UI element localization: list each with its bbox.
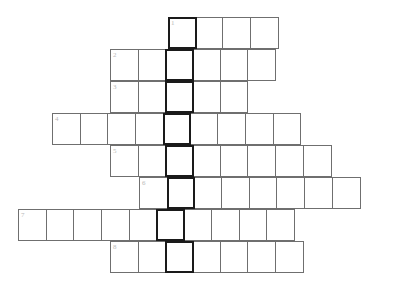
crossword-clue-number: 5 <box>113 147 117 155</box>
crossword-cell[interactable]: 8 <box>110 241 139 273</box>
crossword-cell[interactable]: 6 <box>139 177 168 209</box>
crossword-cell[interactable] <box>192 81 221 113</box>
crossword-cell[interactable] <box>46 209 75 241</box>
crossword-clue-number: 8 <box>113 243 117 251</box>
crossword-cell[interactable] <box>217 113 246 145</box>
crossword-cell-highlighted[interactable] <box>165 81 194 113</box>
crossword-cell[interactable] <box>73 209 102 241</box>
crossword-cell-highlighted[interactable] <box>167 177 196 209</box>
crossword-cell-highlighted[interactable] <box>163 113 192 145</box>
crossword-cell[interactable] <box>220 145 249 177</box>
crossword-row-2: 2 <box>110 49 275 81</box>
crossword-clue-number: 2 <box>113 51 117 59</box>
crossword-row-5: 5 <box>110 145 331 177</box>
crossword-cell[interactable] <box>101 209 130 241</box>
crossword-cell[interactable]: 4 <box>52 113 81 145</box>
crossword-cell[interactable] <box>129 209 158 241</box>
crossword-cell[interactable] <box>250 17 279 49</box>
crossword-row-1: 1 <box>168 17 278 49</box>
crossword-cell[interactable] <box>273 113 302 145</box>
crossword-cell-highlighted[interactable] <box>165 241 194 273</box>
crossword-cell[interactable] <box>195 17 224 49</box>
crossword-cell[interactable] <box>221 177 250 209</box>
crossword-cell-highlighted[interactable] <box>165 145 194 177</box>
crossword-row-8: 8 <box>110 241 303 273</box>
crossword-grid: 12345678 <box>0 0 396 292</box>
crossword-cell[interactable] <box>211 209 240 241</box>
crossword-cell[interactable] <box>276 177 305 209</box>
crossword-cell[interactable] <box>247 241 276 273</box>
crossword-cell[interactable] <box>249 177 278 209</box>
crossword-cell[interactable] <box>107 113 136 145</box>
crossword-cell[interactable] <box>138 81 167 113</box>
crossword-cell[interactable] <box>275 145 304 177</box>
crossword-clue-number: 4 <box>55 115 59 123</box>
crossword-cell[interactable] <box>245 113 274 145</box>
crossword-cell[interactable] <box>304 177 333 209</box>
crossword-cell[interactable]: 5 <box>110 145 139 177</box>
crossword-cell[interactable] <box>220 81 249 113</box>
crossword-cell[interactable] <box>220 241 249 273</box>
crossword-cell[interactable] <box>80 113 109 145</box>
crossword-clue-number: 1 <box>171 19 175 27</box>
crossword-cell[interactable] <box>303 145 332 177</box>
crossword-cell-highlighted[interactable] <box>165 49 194 81</box>
crossword-cell-highlighted[interactable] <box>156 209 185 241</box>
crossword-row-6: 6 <box>139 177 360 209</box>
crossword-row-3: 3 <box>110 81 247 113</box>
crossword-clue-number: 7 <box>21 211 25 219</box>
crossword-cell[interactable] <box>247 145 276 177</box>
crossword-cell[interactable] <box>220 49 249 81</box>
crossword-cell[interactable] <box>193 177 222 209</box>
crossword-row-7: 7 <box>18 209 294 241</box>
crossword-cell[interactable] <box>189 113 218 145</box>
crossword-cell[interactable] <box>138 241 167 273</box>
crossword-cell[interactable]: 7 <box>18 209 47 241</box>
crossword-cell[interactable] <box>138 145 167 177</box>
crossword-cell-highlighted[interactable]: 1 <box>168 17 197 49</box>
crossword-row-4: 4 <box>52 113 300 145</box>
crossword-cell[interactable] <box>266 209 295 241</box>
crossword-cell[interactable] <box>247 49 276 81</box>
crossword-cell[interactable] <box>192 49 221 81</box>
crossword-cell[interactable] <box>332 177 361 209</box>
crossword-clue-number: 6 <box>142 179 146 187</box>
crossword-cell[interactable] <box>275 241 304 273</box>
crossword-cell[interactable] <box>183 209 212 241</box>
crossword-cell[interactable] <box>239 209 268 241</box>
crossword-cell[interactable] <box>222 17 251 49</box>
crossword-cell[interactable] <box>135 113 164 145</box>
crossword-cell[interactable]: 3 <box>110 81 139 113</box>
crossword-cell[interactable]: 2 <box>110 49 139 81</box>
crossword-cell[interactable] <box>192 145 221 177</box>
crossword-cell[interactable] <box>192 241 221 273</box>
crossword-clue-number: 3 <box>113 83 117 91</box>
crossword-cell[interactable] <box>138 49 167 81</box>
